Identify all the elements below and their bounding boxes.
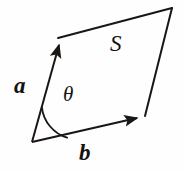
figure-canvas [0, 0, 185, 171]
vector-b-arrow [32, 118, 137, 142]
vector-a-arrow [32, 45, 59, 142]
angle-arc [42, 107, 67, 137]
vector-b-label: b [79, 141, 91, 164]
parallelogram-diagram: a b S θ [0, 0, 185, 171]
vector-a-label: a [14, 74, 26, 97]
parallelogram-right-edge [145, 8, 172, 116]
area-label: S [110, 32, 122, 55]
angle-theta-label: θ [63, 84, 73, 105]
